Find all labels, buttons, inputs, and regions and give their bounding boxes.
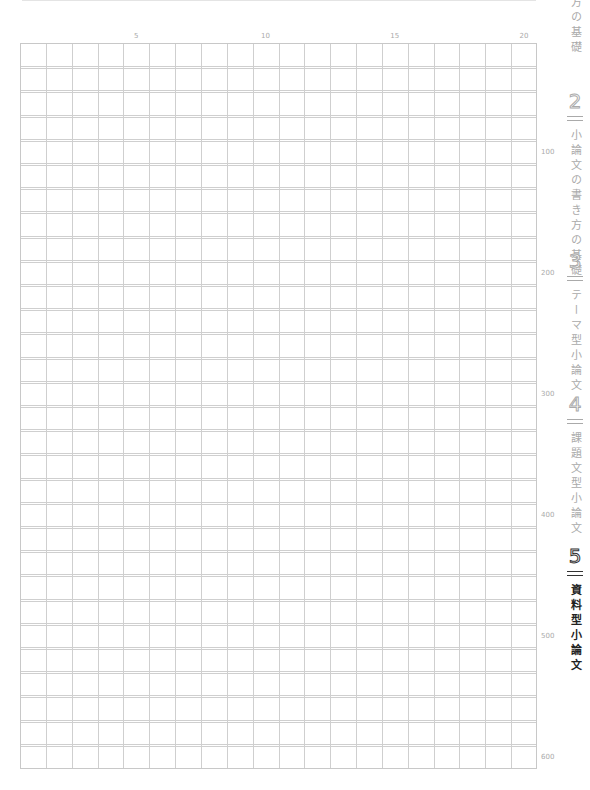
grid-row-line xyxy=(21,187,536,190)
grid-row-line xyxy=(21,623,536,626)
grid-row-line xyxy=(21,647,536,650)
grid-row-line xyxy=(21,260,536,263)
grid-row-line xyxy=(21,284,536,287)
divider xyxy=(567,571,583,576)
grid-row-line xyxy=(21,332,536,335)
chapter-number: 2 xyxy=(560,90,590,112)
chapter-number: 4 xyxy=(560,393,590,415)
chapter-title: 資料型小論文 xyxy=(567,584,583,674)
column-count-label: 10 xyxy=(261,32,270,40)
grid-row-line xyxy=(21,671,536,674)
chapter-4-tab[interactable]: 4 課題文型小論文 xyxy=(560,393,590,537)
chapter-5-tab[interactable]: 5 資料型小論文 xyxy=(560,545,590,674)
column-count-label: 5 xyxy=(134,32,138,40)
grid-row-line xyxy=(21,163,536,166)
grid-row-line xyxy=(21,115,536,118)
side-index-partial: 方の基礎 xyxy=(560,0,590,56)
grid-row-line xyxy=(21,478,536,481)
grid-row-line xyxy=(21,574,536,577)
divider xyxy=(567,116,583,121)
grid-row-line xyxy=(21,550,536,553)
partial-chapter-title: 方の基礎 xyxy=(567,0,583,56)
grid-row-line xyxy=(21,502,536,505)
character-count-label: 500 xyxy=(541,632,554,640)
character-count-label: 600 xyxy=(541,753,554,761)
grid-row-line xyxy=(21,381,536,384)
column-count-label: 15 xyxy=(390,32,399,40)
chapter-number: 3 xyxy=(560,250,590,272)
column-count-label: 20 xyxy=(520,32,529,40)
genkou-grid xyxy=(20,43,537,769)
grid-row-line xyxy=(21,90,536,93)
grid-row-line xyxy=(21,526,536,529)
grid-row-line xyxy=(21,66,536,69)
grid-row-line xyxy=(21,429,536,432)
character-count-label: 100 xyxy=(541,148,554,156)
grid-row-line xyxy=(21,695,536,698)
grid-row-line xyxy=(21,139,536,142)
divider xyxy=(567,276,583,281)
chapter-title: テーマ型小論文 xyxy=(567,289,583,394)
character-count-label: 400 xyxy=(541,511,554,519)
divider xyxy=(567,419,583,424)
grid-row-line xyxy=(21,720,536,723)
chapter-title: 課題文型小論文 xyxy=(567,432,583,537)
top-rule xyxy=(22,0,536,1)
grid-row-line xyxy=(21,236,536,239)
character-count-label: 200 xyxy=(541,269,554,277)
chapter-number: 5 xyxy=(560,545,590,567)
grid-row-line xyxy=(21,308,536,311)
grid-row-line xyxy=(21,453,536,456)
grid-row-line xyxy=(21,211,536,214)
chapter-3-tab[interactable]: 3 テーマ型小論文 xyxy=(560,250,590,394)
grid-row-line xyxy=(21,357,536,360)
grid-row-line xyxy=(21,599,536,602)
character-count-label: 300 xyxy=(541,390,554,398)
grid-row-line xyxy=(21,405,536,408)
grid-row-line xyxy=(21,744,536,747)
